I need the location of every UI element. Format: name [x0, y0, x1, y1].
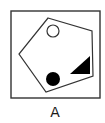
- hollow-circle-icon: [47, 25, 59, 37]
- filled-triangle-icon: [70, 56, 90, 74]
- option-label: A: [0, 104, 105, 120]
- figure-option: A: [0, 0, 105, 123]
- filled-circle-icon: [46, 72, 60, 86]
